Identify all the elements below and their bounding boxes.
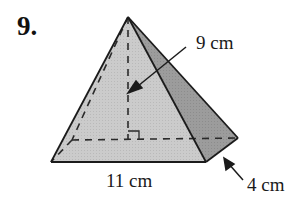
pyramid-figure: 9. 9 cm 11 cm 4 cm	[0, 0, 294, 200]
depth-arrow	[224, 158, 243, 180]
problem-number: 9.	[17, 13, 37, 40]
base-width-label: 4 cm	[247, 175, 284, 194]
base-length-label: 11 cm	[106, 171, 152, 190]
height-label: 9 cm	[196, 33, 233, 52]
